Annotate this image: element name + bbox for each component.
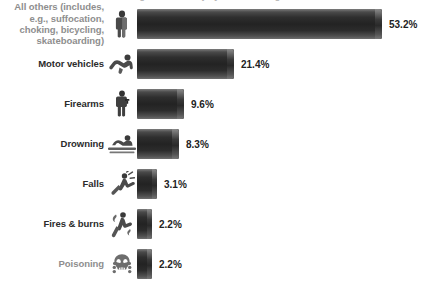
- bar: [137, 249, 152, 279]
- chart-row: Drowning 8.3%: [0, 128, 432, 160]
- bar-value-label: 53.2%: [382, 19, 417, 30]
- skull-crossbones-icon: [107, 248, 137, 280]
- bar-cell: 9.6%: [137, 89, 432, 119]
- bar-value-label: 2.2%: [152, 259, 182, 270]
- chart-row: Falls 3.1%: [0, 168, 432, 200]
- pedestrian-icon: [107, 8, 137, 40]
- person-with-gun-icon: [107, 88, 137, 120]
- chart-row: Motor vehicles 21.4%: [0, 48, 432, 80]
- category-label: Poisoning: [0, 258, 107, 269]
- bar-cell: 8.3%: [137, 129, 432, 159]
- category-label: Fires & burns: [0, 218, 107, 229]
- bar-value-label: 9.6%: [184, 99, 214, 110]
- bar: [137, 9, 382, 39]
- bar: [137, 209, 152, 239]
- bar: [137, 49, 234, 79]
- chart-row: Poisoning 2.2%: [0, 248, 432, 280]
- car-crash-occupant-icon: [107, 48, 137, 80]
- bar: [137, 169, 157, 199]
- bar-value-label: 3.1%: [157, 179, 187, 190]
- bar-cell: 2.2%: [137, 249, 432, 279]
- bar-cell: 53.2%: [137, 9, 432, 39]
- bar-cell: 2.2%: [137, 209, 432, 239]
- chart-row: All others (includes, e.g., suffocation,…: [0, 8, 432, 40]
- category-label: Motor vehicles: [0, 58, 107, 69]
- category-label: Drowning: [0, 138, 107, 149]
- bar: [137, 89, 184, 119]
- burning-person-icon: [107, 208, 137, 240]
- category-label: All others (includes, e.g., suffocation,…: [0, 1, 107, 46]
- falling-person-icon: [107, 168, 137, 200]
- bar: [137, 129, 179, 159]
- category-label: Firearms: [0, 98, 107, 109]
- category-label: Falls: [0, 178, 107, 189]
- bar-value-label: 2.2%: [152, 219, 182, 230]
- chart-row: Fires & burns 2.2%: [0, 208, 432, 240]
- bar-value-label: 8.3%: [179, 139, 209, 150]
- chart-row: Firearms 9.6%: [0, 88, 432, 120]
- bar-value-label: 21.4%: [234, 59, 269, 70]
- horizontal-bar-chart: All others (includes, e.g., suffocation,…: [0, 8, 432, 286]
- bar-cell: 21.4%: [137, 49, 432, 79]
- drowning-swimmer-icon: [107, 128, 137, 160]
- bar-cell: 3.1%: [137, 169, 432, 199]
